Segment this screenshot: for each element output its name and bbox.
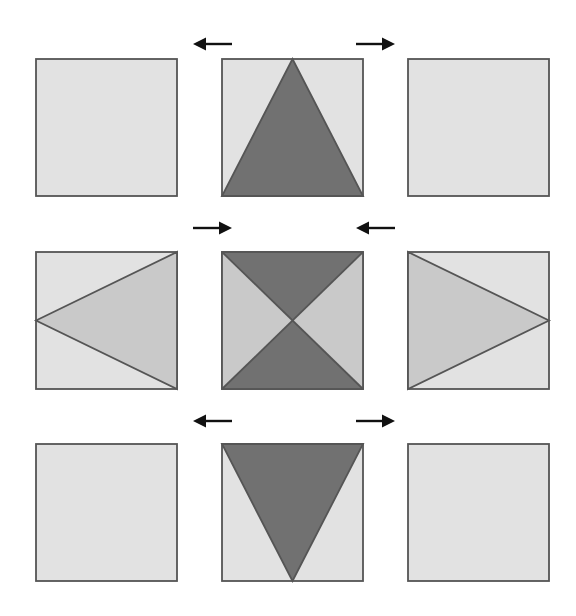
square-background xyxy=(36,59,177,196)
grid-cell-3-3 xyxy=(408,444,549,581)
grid-cell-2-3 xyxy=(408,252,549,389)
grid-cell-2-2 xyxy=(222,252,363,389)
grid-cell-1-2 xyxy=(222,59,363,196)
arrow-head xyxy=(356,222,369,235)
arrow-top-right-icon xyxy=(356,38,395,51)
grid-cell-3-2 xyxy=(222,444,363,581)
shape-grid-diagram xyxy=(0,0,576,616)
arrow-head xyxy=(193,415,206,428)
grid-cell-2-1 xyxy=(36,252,177,389)
arrow-head xyxy=(382,415,395,428)
square-background xyxy=(36,444,177,581)
grid-cell-1-3 xyxy=(408,59,549,196)
diagram-canvas xyxy=(0,0,576,616)
arrow-bottom-left-icon xyxy=(193,415,232,428)
arrow-head xyxy=(193,38,206,51)
arrow-middle-left-icon xyxy=(193,222,232,235)
grid-cell-1-1 xyxy=(36,59,177,196)
arrow-bottom-right-icon xyxy=(356,415,395,428)
arrow-head xyxy=(382,38,395,51)
square-background xyxy=(408,59,549,196)
square-background xyxy=(408,444,549,581)
grid-cell-3-1 xyxy=(36,444,177,581)
arrow-middle-right-icon xyxy=(356,222,395,235)
arrow-top-left-icon xyxy=(193,38,232,51)
arrow-head xyxy=(219,222,232,235)
